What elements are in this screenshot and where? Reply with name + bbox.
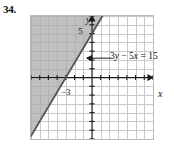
y-axis-label: y [86,14,90,25]
equation-annotation: 3y − 5x = 15 [110,51,158,61]
exercise-figure: 34. y x 5 −3 3y − 5x = 15 [0,0,174,151]
annotation-arrowhead [87,56,92,61]
problem-number: 34. [3,3,16,15]
equation-constant: 15 [148,51,158,61]
x-intercept-tick-label: −3 [61,87,71,97]
grid-line-vertical [153,16,154,139]
annotation-arrow-svg [31,16,153,139]
x-axis-label: x [158,88,162,99]
coordinate-plane [30,15,154,140]
annotation-arrow [31,16,153,139]
grid-line-horizontal [31,139,153,140]
y-intercept-tick-label: 5 [78,26,83,36]
